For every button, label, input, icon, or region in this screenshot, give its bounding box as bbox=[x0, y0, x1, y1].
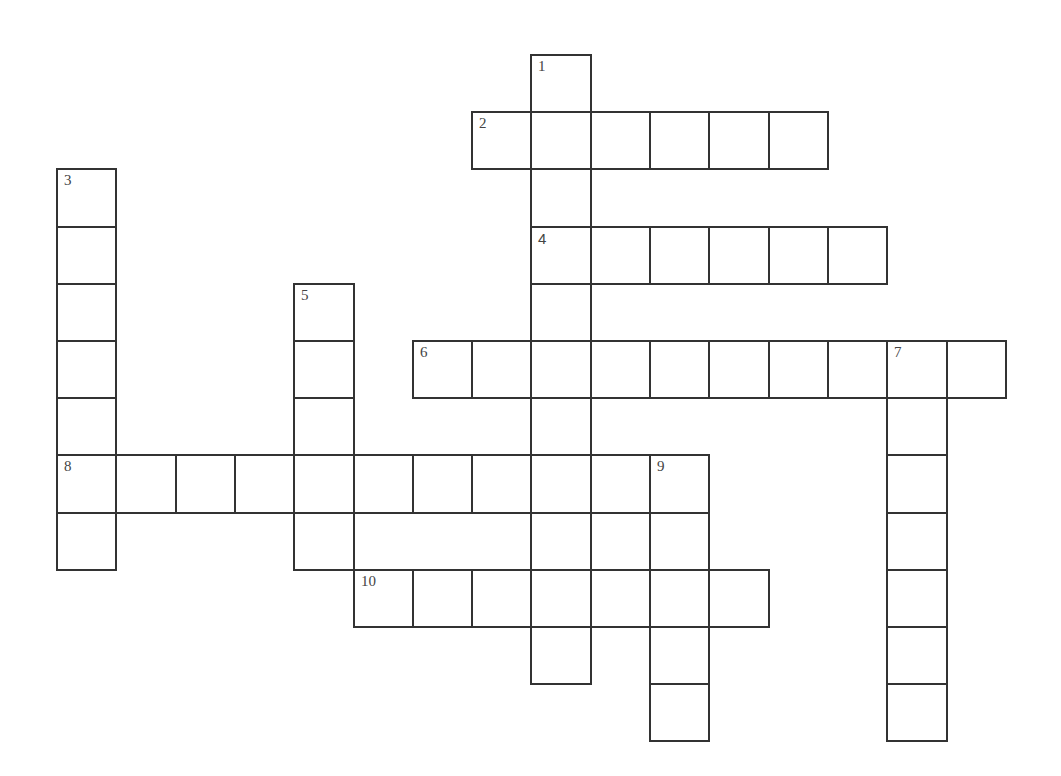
crossword-cell[interactable] bbox=[471, 454, 532, 514]
crossword-cell[interactable] bbox=[530, 626, 592, 685]
crossword-cell[interactable] bbox=[412, 569, 473, 628]
crossword-cell[interactable] bbox=[590, 226, 651, 285]
crossword-cell[interactable] bbox=[649, 340, 710, 399]
clue-number: 9 bbox=[657, 459, 665, 474]
crossword-cell[interactable] bbox=[56, 340, 117, 399]
clue-number: 1 bbox=[538, 59, 546, 74]
clue-number: 3 bbox=[64, 173, 72, 188]
crossword-cell[interactable]: 2 bbox=[471, 111, 532, 170]
crossword-cell[interactable] bbox=[530, 569, 592, 628]
crossword-cell[interactable]: 3 bbox=[56, 168, 117, 228]
clue-number: 6 bbox=[420, 345, 428, 360]
crossword-cell[interactable] bbox=[768, 340, 829, 399]
crossword-cell[interactable] bbox=[412, 454, 473, 514]
crossword-cell[interactable]: 6 bbox=[412, 340, 473, 399]
crossword-cell[interactable]: 10 bbox=[353, 569, 414, 628]
crossword-cell[interactable] bbox=[649, 626, 710, 685]
crossword-cell[interactable] bbox=[827, 226, 888, 285]
crossword-cell[interactable] bbox=[708, 569, 770, 628]
crossword-cell[interactable] bbox=[886, 512, 948, 571]
crossword-cell[interactable] bbox=[293, 512, 355, 571]
crossword-cell[interactable]: 1 bbox=[530, 54, 592, 113]
crossword-cell[interactable] bbox=[708, 340, 770, 399]
crossword-cell[interactable] bbox=[530, 168, 592, 228]
crossword-cell[interactable] bbox=[649, 226, 710, 285]
crossword-cell[interactable] bbox=[530, 111, 592, 170]
crossword-cell[interactable] bbox=[768, 111, 829, 170]
crossword-cell[interactable] bbox=[886, 454, 948, 514]
crossword-cell[interactable] bbox=[175, 454, 236, 514]
crossword-cell[interactable] bbox=[886, 569, 948, 628]
crossword-cell[interactable]: 8 bbox=[56, 454, 117, 514]
clue-number: 8 bbox=[64, 459, 72, 474]
crossword-cell[interactable] bbox=[353, 454, 414, 514]
crossword-cell[interactable] bbox=[530, 397, 592, 456]
crossword-cell[interactable]: 9 bbox=[649, 454, 710, 514]
crossword-cell[interactable] bbox=[590, 454, 651, 514]
crossword-cell[interactable] bbox=[886, 626, 948, 685]
crossword-cell[interactable] bbox=[649, 111, 710, 170]
crossword-cell[interactable] bbox=[293, 340, 355, 399]
crossword-cell[interactable] bbox=[293, 454, 355, 514]
crossword-cell[interactable] bbox=[590, 340, 651, 399]
clue-number: 2 bbox=[479, 116, 487, 131]
crossword-cell[interactable] bbox=[649, 683, 710, 742]
clue-number: 4 bbox=[538, 231, 546, 246]
crossword-cell[interactable] bbox=[56, 397, 117, 456]
clue-number: 5 bbox=[301, 288, 309, 303]
crossword-cell[interactable]: 5 bbox=[293, 283, 355, 342]
crossword-cell[interactable] bbox=[590, 569, 651, 628]
crossword-cell[interactable] bbox=[768, 226, 829, 285]
clue-number: 7 bbox=[894, 345, 902, 360]
crossword-cell[interactable] bbox=[56, 226, 117, 285]
crossword-cell[interactable] bbox=[649, 512, 710, 571]
crossword-cell[interactable] bbox=[827, 340, 888, 399]
crossword-cell[interactable] bbox=[649, 569, 710, 628]
crossword-cell[interactable] bbox=[886, 683, 948, 742]
crossword-cell[interactable] bbox=[530, 283, 592, 342]
crossword-cell[interactable] bbox=[234, 454, 295, 514]
crossword-cell[interactable] bbox=[530, 454, 592, 514]
crossword-cell[interactable] bbox=[56, 512, 117, 571]
crossword-cell[interactable] bbox=[708, 226, 770, 285]
crossword-cell[interactable] bbox=[886, 397, 948, 456]
crossword-cell[interactable] bbox=[708, 111, 770, 170]
crossword-cell[interactable] bbox=[590, 111, 651, 170]
crossword-cell[interactable] bbox=[471, 340, 532, 399]
crossword-cell[interactable]: 7 bbox=[886, 340, 948, 399]
crossword-cell[interactable] bbox=[530, 512, 592, 571]
crossword-cell[interactable] bbox=[946, 340, 1007, 399]
crossword-grid: 14238567910 bbox=[0, 0, 1061, 776]
crossword-cell[interactable] bbox=[115, 454, 177, 514]
crossword-cell[interactable] bbox=[530, 340, 592, 399]
crossword-cell[interactable] bbox=[293, 397, 355, 456]
crossword-cell[interactable] bbox=[56, 283, 117, 342]
crossword-cell[interactable]: 4 bbox=[530, 226, 592, 285]
crossword-cell[interactable] bbox=[471, 569, 532, 628]
clue-number: 10 bbox=[361, 574, 376, 589]
